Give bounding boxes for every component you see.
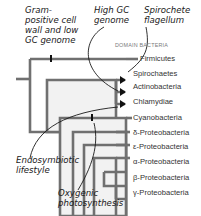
annotation-spirochete: Spirochete flagellum [144,5,190,25]
svg-text:Endosymbiotic: Endosymbiotic [16,155,79,165]
taxon-label: Firmicutes [140,54,175,63]
svg-text:photosynthesis: photosynthesis [57,198,124,208]
taxon-label: Chlamydiae [133,97,173,106]
chlamydiae-marker [120,100,126,108]
taxon-label: γ-Proteobacteria [133,188,189,197]
svg-text:GC genome: GC genome [25,35,76,45]
svg-text:lifestyle: lifestyle [16,165,50,175]
actinobacteria-marker [120,88,126,96]
svg-text:flagellum: flagellum [144,15,184,25]
annotation-high-gc: High GC genome [94,5,129,25]
taxa-labels: Firmicutes Spirochaetes Actinobacteria C… [133,54,190,197]
oxygenic-marker [91,114,93,121]
taxon-label: Cyanobacteria [133,113,183,122]
taxon-label: β-Proteobacteria [133,173,190,182]
taxon-label: Actinobacteria [133,82,182,91]
taxon-label: Spirochaetes [133,69,178,78]
svg-text:Spirochete: Spirochete [144,5,190,15]
svg-text:genome: genome [94,15,129,25]
svg-text:Gram-: Gram- [25,5,52,15]
phylogenetic-tree: DOMAIN BACTERIA Firmicutes Spirochaetes … [0,0,201,216]
svg-text:wall and low: wall and low [25,25,79,35]
taxon-label: δ-Proteobacteria [133,128,190,137]
spirochaete-marker [120,76,126,84]
annotation-gram-positive: Gram- positive cell wall and low GC geno… [24,5,79,45]
domain-label: DOMAIN BACTERIA [115,42,168,48]
svg-text:Oxygenic: Oxygenic [58,188,99,198]
svg-text:positive cell: positive cell [24,15,77,25]
gram-positive-marker [50,55,52,62]
taxon-label: α-Proteobacteria [133,157,190,166]
taxon-label: ε-Proteobacteria [133,142,189,151]
svg-text:High GC: High GC [94,5,129,15]
